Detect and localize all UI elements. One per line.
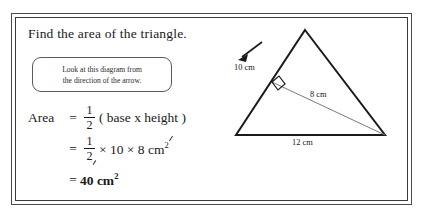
cancellation-mark-eight <box>169 135 173 141</box>
instruction-line-1: Look at this diagram from <box>33 64 171 75</box>
triangle-outline <box>236 30 385 135</box>
fraction-denominator-2: 2 <box>87 149 93 162</box>
answer-unit-exponent: 2 <box>114 171 118 181</box>
unit-line-2: cm <box>148 141 165 156</box>
instruction-line-2: the direction of the arrow. <box>33 75 171 86</box>
substituted-values: × 10 × 8 <box>99 141 145 156</box>
worksheet-page: Find the area of the triangle. Look at t… <box>0 0 424 219</box>
instruction-callout-text: Look at this diagram from the direction … <box>33 64 171 86</box>
fraction-one-half-1: 1 2 <box>84 104 95 131</box>
equals-sign-1: = <box>66 110 80 126</box>
unit-exponent-line-2: 2 <box>164 140 168 150</box>
solution-line-2: = 1 2 × 10 × 8 cm2 <box>28 133 186 164</box>
area-label: Area <box>28 110 66 126</box>
fraction-numerator-1: 1 <box>87 104 93 117</box>
solution-line-3: = 40 cm2 <box>28 164 186 195</box>
label-slant-side: 10 cm <box>234 63 255 72</box>
equals-sign-3: = <box>66 172 80 188</box>
denominator-value-2: 2 <box>87 149 93 163</box>
answer-unit: cm <box>97 172 114 187</box>
label-base: 12 cm <box>292 138 313 147</box>
page-title: Find the area of the triangle. <box>28 26 187 42</box>
solution-line-1: Area = 1 2 ( base x height ) <box>28 102 186 133</box>
area-formula-expression: ( base x height ) <box>99 110 186 126</box>
fraction-denominator-1: 2 <box>87 118 93 131</box>
triangle-svg <box>224 20 404 180</box>
final-answer: 40 cm2 <box>80 171 118 189</box>
fraction-one-half-2: 1 2 <box>84 135 95 162</box>
equals-sign-2: = <box>66 141 80 157</box>
answer-value: 40 <box>80 172 94 187</box>
altitude-line <box>272 82 385 135</box>
worked-solution: Area = 1 2 ( base x height ) = 1 2 × 10 <box>28 102 186 195</box>
instruction-callout: Look at this diagram from the direction … <box>32 57 172 92</box>
fraction-numerator-2: 1 <box>87 135 93 148</box>
direction-arrow-icon <box>238 42 262 62</box>
substituted-expression: × 10 × 8 cm2 <box>99 140 169 158</box>
label-altitude: 8 cm <box>310 90 327 99</box>
triangle-diagram: 10 cm 8 cm 12 cm <box>224 20 404 180</box>
